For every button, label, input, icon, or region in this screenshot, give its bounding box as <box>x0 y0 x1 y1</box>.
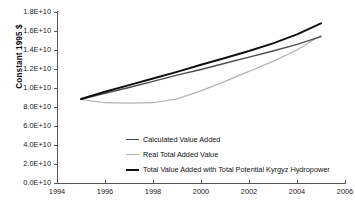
chart-container: Constant 1995 $ 0.0E+102.0E+104.0E+106.0… <box>0 0 355 211</box>
series-line <box>81 23 321 99</box>
series-line <box>81 37 321 100</box>
plot-area <box>0 0 355 211</box>
legend-label: Calculated Value Added <box>143 136 220 143</box>
legend-swatch <box>126 154 139 155</box>
legend-swatch <box>126 139 139 140</box>
legend-label: Real Total Added Value <box>143 151 218 158</box>
legend-label: Total Value Added with Total Potential K… <box>143 166 330 173</box>
legend-swatch <box>126 169 139 171</box>
legend-item: Total Value Added with Total Potential K… <box>126 166 330 173</box>
legend-item: Real Total Added Value <box>126 151 218 158</box>
legend-item: Calculated Value Added <box>126 136 220 143</box>
